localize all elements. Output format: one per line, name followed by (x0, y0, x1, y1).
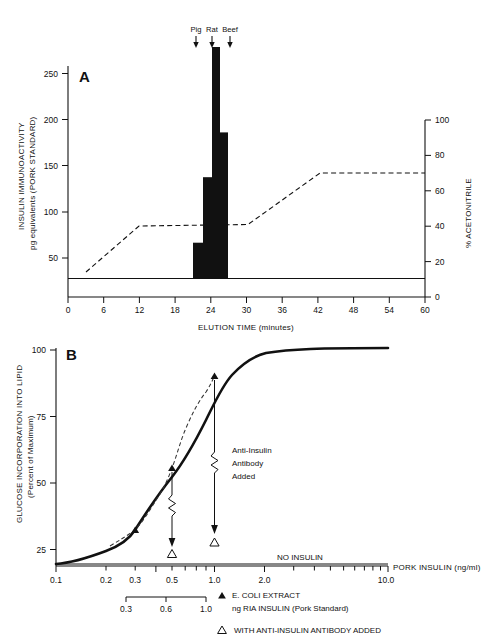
panel-b-xtick-0p2: 0.2 (100, 575, 112, 585)
panel-a-bar-22-23 (193, 243, 203, 279)
panel-b-xtick-0p5: 0.5 (166, 575, 178, 585)
panel-a-arrowhead-beef (227, 42, 232, 48)
panel-b-xtick-0p3: 0.3 (129, 575, 141, 585)
panel-b-ylabel-line2: (Percent of Maximum) (26, 415, 35, 498)
panel-a-marker-label-pig: Pig (191, 25, 202, 34)
panel-b-xtick-0p1: 0.1 (50, 575, 62, 585)
panel-a-ytick-250: 250 (44, 69, 58, 79)
panel-b-marker-antibody-1p0 (210, 538, 219, 546)
panel-a-xtick-0: 0 (66, 305, 71, 315)
panel-a-species-markers: Pig Rat Beef (191, 25, 239, 48)
panel-a-ytick-100: 100 (44, 207, 58, 217)
panel-b-sec-tick-1p0: 1.0 (200, 604, 212, 614)
panel-b-sec-tick-0p3: 0.3 (120, 604, 132, 614)
panel-a-bar-23-24 (203, 177, 212, 278)
panel-a-histogram (193, 47, 228, 279)
legend-filled-triangle-icon (218, 592, 226, 599)
panel-b-annotation-line2: Antibody (232, 459, 263, 468)
panel-a-ylabel-line2: pg equivalents (PORK STANDARD) (28, 116, 37, 250)
panel-a-xtick-54: 54 (385, 305, 395, 315)
panel-a-y2label: % ACETONITRILE (464, 178, 473, 248)
panel-a-xtick-48: 48 (349, 305, 359, 315)
panel-b-ytick-25: 25 (37, 545, 47, 555)
panel-b-filled-markers (131, 373, 218, 534)
panel-a-y2tick-80: 80 (435, 150, 445, 160)
panel-b-annotation-line1: Anti-Insulin (232, 446, 272, 455)
panel-a-xtick-60: 60 (420, 305, 430, 315)
legend-label-ecoli: E. COLI EXTRACT (232, 591, 300, 600)
panel-a-xtick-18: 18 (170, 305, 180, 315)
panel-b-marker-antibody-0p6 (167, 550, 176, 558)
panel-b-secondary-axis-caption: ng RIA INSULIN (Pork Standard) (232, 604, 349, 613)
panel-b-ylabel-line1: GLUCOSE INCORPORATION INTO LIPID (15, 365, 24, 523)
panel-b-xtick-10p0: 10.0 (378, 575, 395, 585)
panel-a-xtick-6: 6 (101, 305, 106, 315)
panel-b-pork-standard-curve (56, 348, 388, 564)
panel-a-xtick-30: 30 (242, 305, 252, 315)
panel-b-xtick-1p0: 1.0 (209, 575, 221, 585)
legend-label-antibody: WITH ANTI-INSULIN ANTIBODY ADDED (234, 626, 381, 635)
panel-a-ytick-200: 200 (44, 115, 58, 125)
panel-b-arrowhead-0p6 (169, 538, 176, 547)
panel-a-marker-label-beef: Beef (222, 25, 239, 34)
panel-b-xtick-2p0: 2.0 (259, 575, 271, 585)
panel-b-marker-ecoli-0p6 (168, 465, 176, 472)
panel-b: 25 50 75 100 0.1 0.2 0.3 (15, 345, 481, 635)
panel-a-ylabel-line1: INSULIN IMMUNOACTIVITY (17, 122, 26, 230)
panel-a-bar-26-27 (212, 224, 228, 279)
panel-b-ytick-75: 75 (37, 412, 47, 422)
panel-b-ecoli-extract-curve (110, 376, 215, 546)
panel-a-letter: A (79, 68, 90, 85)
panel-a-acetonitrile-gradient (86, 173, 425, 272)
panel-a-ytick-150: 150 (44, 161, 58, 171)
panel-b-ytick-100: 100 (32, 345, 46, 355)
panel-a-xtick-36: 36 (277, 305, 287, 315)
panel-a-y2tick-60: 60 (435, 186, 445, 196)
panel-a-xlabel: ELUTION TIME (minutes) (198, 323, 294, 332)
panel-b-arrowhead-1p0 (211, 525, 218, 534)
figure-root: 50 100 150 200 250 0 20 40 60 80 100 (0, 0, 481, 641)
panel-a: 50 100 150 200 250 0 20 40 60 80 100 (17, 25, 473, 332)
panel-a-xtick-42: 42 (313, 305, 323, 315)
panel-a-marker-label-rat: Rat (206, 25, 219, 34)
panel-a-y2tick-0: 0 (435, 292, 440, 302)
panel-b-x-minor-ticks (56, 566, 388, 572)
panel-a-xtick-24: 24 (206, 305, 216, 315)
panel-a-ytick-50: 50 (49, 253, 59, 263)
panel-b-letter: B (66, 346, 77, 363)
panel-a-y2tick-100: 100 (435, 115, 449, 125)
legend-open-triangle-icon (218, 626, 227, 634)
panel-a-x-ticks (68, 297, 425, 303)
panel-a-y2tick-40: 40 (435, 221, 445, 231)
panel-b-sec-tick-0p6: 0.6 (160, 604, 172, 614)
panel-b-arrow-1p0 (211, 380, 218, 527)
panel-a-xtick-12: 12 (135, 305, 145, 315)
panel-a-arrowhead-pig (193, 42, 198, 48)
panel-b-secondary-axis (126, 597, 206, 602)
panel-a-y2tick-20: 20 (435, 257, 445, 267)
panel-b-y-ticks (50, 350, 56, 550)
panel-b-annotation-line3: Added (232, 472, 255, 481)
panel-b-ytick-50: 50 (37, 478, 47, 488)
panel-b-xlabel: PORK INSULIN (ng/ml) (393, 563, 481, 572)
panel-a-y-ticks (62, 74, 68, 259)
panel-b-no-insulin-label: NO INSULIN (277, 553, 323, 562)
panel-b-marker-ecoli-1p0 (211, 373, 219, 380)
figure-svg: 50 100 150 200 250 0 20 40 60 80 100 (0, 0, 481, 641)
panel-a-y2-ticks (425, 120, 431, 297)
